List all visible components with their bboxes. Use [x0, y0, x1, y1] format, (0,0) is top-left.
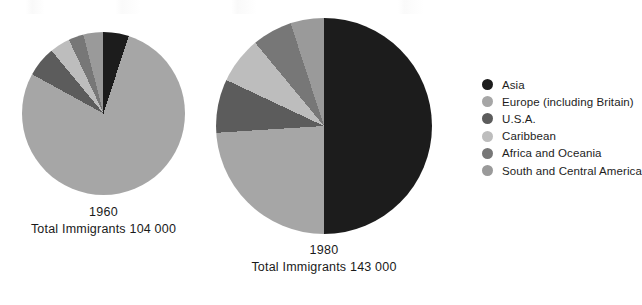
legend-swatch-icon — [482, 131, 493, 142]
pie-1980-total-label: Total Immigrants 143 000 — [194, 259, 454, 276]
pie-1960-year-label: 1960 — [0, 204, 214, 221]
legend-item[interactable]: U.S.A. — [482, 110, 642, 127]
legend-swatch-icon — [482, 113, 493, 124]
pie-chart-1960-caption: 1960 Total Immigrants 104 000 — [0, 204, 214, 238]
pie-chart-1980-group: 1980 Total Immigrants 143 000 — [216, 18, 432, 234]
pie-chart-1980-caption: 1980 Total Immigrants 143 000 — [194, 242, 454, 276]
chart-legend: AsiaEurope (including Britain)U.S.A.Cari… — [482, 76, 642, 179]
legend-item-label: Asia — [502, 79, 525, 91]
legend-swatch-icon — [482, 79, 493, 90]
chart-canvas: 1960 Total Immigrants 104 000 1980 Total… — [0, 0, 642, 305]
legend-item-label: U.S.A. — [502, 113, 536, 125]
legend-swatch-icon — [482, 148, 493, 159]
legend-item[interactable]: Asia — [482, 76, 642, 93]
legend-item-label: Europe (including Britain) — [502, 96, 634, 108]
legend-swatch-icon — [482, 96, 493, 107]
pie-chart-1960 — [22, 32, 185, 195]
legend-item[interactable]: Africa and Oceania — [482, 145, 642, 162]
legend-item[interactable]: Caribbean — [482, 128, 642, 145]
pie-chart-1980 — [216, 18, 432, 234]
pie-chart-1960-group: 1960 Total Immigrants 104 000 — [22, 32, 185, 195]
legend-item[interactable]: Europe (including Britain) — [482, 93, 642, 110]
legend-item-label: Caribbean — [502, 130, 556, 142]
pie-1960-total-label: Total Immigrants 104 000 — [0, 221, 214, 238]
pie-1980-year-label: 1980 — [194, 242, 454, 259]
legend-swatch-icon — [482, 165, 493, 176]
legend-item[interactable]: South and Central America — [482, 162, 642, 179]
legend-item-label: Africa and Oceania — [502, 147, 602, 159]
scan-noise — [0, 0, 642, 14]
legend-item-label: South and Central America — [502, 165, 642, 177]
